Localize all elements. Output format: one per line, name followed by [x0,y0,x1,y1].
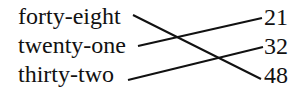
line-forty-eight-to-48 [133,15,261,79]
line-thirty-two-to-32 [128,47,263,80]
connector-lines [0,0,300,102]
line-twenty-one-to-21 [138,18,262,46]
